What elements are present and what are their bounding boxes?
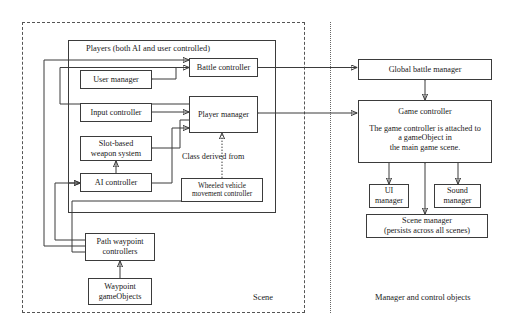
- node-user-manager[interactable]: User manager: [80, 70, 152, 89]
- players-group-title: Players (both AI and user controlled): [86, 44, 210, 53]
- node-global-battle-manager[interactable]: Global battle manager: [358, 59, 492, 80]
- node-battle-controller[interactable]: Battle controller: [189, 58, 258, 77]
- node-wheeled-vehicle-line-1: movement controller: [192, 190, 252, 198]
- node-game-controller-note-line-0: The game controller is attached to: [369, 124, 481, 134]
- node-battle-controller-line-0: Battle controller: [197, 63, 250, 73]
- scene-region-label: Scene: [253, 293, 273, 302]
- node-path-waypoint-line-1: controllers: [102, 247, 137, 257]
- node-player-manager-line-0: Player manager: [198, 110, 249, 120]
- node-waypoint-gameobjects-line-0: Waypoint: [104, 282, 136, 292]
- node-input-controller-line-0: Input controller: [90, 108, 141, 118]
- node-waypoint-gameobjects[interactable]: Waypoint gameObjects: [88, 278, 152, 305]
- node-ui-manager[interactable]: UI manager: [369, 184, 409, 208]
- node-game-controller[interactable]: Game controller The game controller is a…: [358, 100, 492, 163]
- node-path-waypoint-controllers[interactable]: Path waypoint controllers: [85, 233, 155, 261]
- architecture-diagram: Players (both AI and user controlled): [0, 0, 509, 334]
- node-sound-manager[interactable]: Sound manager: [434, 184, 481, 208]
- node-ui-manager-line-0: UI: [385, 186, 394, 196]
- node-wheeled-vehicle-movement-controller[interactable]: Wheeled vehicle movement controller: [181, 178, 263, 202]
- node-game-controller-note-line-1: a gameObject in: [398, 133, 452, 143]
- node-waypoint-gameobjects-line-1: gameObjects: [99, 292, 142, 302]
- managers-region-label: Manager and control objects: [375, 293, 471, 302]
- node-wheeled-vehicle-line-0: Wheeled vehicle: [198, 182, 246, 190]
- node-sound-manager-line-0: Sound: [447, 186, 468, 196]
- node-scene-manager[interactable]: Scene manager (persists across all scene…: [366, 214, 488, 238]
- node-slot-based-weapon-system-line-0: Slot-based: [99, 139, 134, 149]
- node-scene-manager-line-0: Scene manager: [402, 216, 452, 226]
- node-slot-based-weapon-system-line-1: weapon system: [91, 149, 141, 159]
- node-ai-controller-line-0: AI controller: [95, 178, 138, 188]
- node-sound-manager-line-1: manager: [443, 196, 471, 206]
- node-path-waypoint-line-0: Path waypoint: [96, 237, 143, 247]
- node-input-controller[interactable]: Input controller: [80, 103, 152, 122]
- node-game-controller-line-0: Game controller: [398, 107, 451, 117]
- annotation-class-derived-from: Class derived from: [182, 152, 244, 161]
- node-slot-based-weapon-system[interactable]: Slot-based weapon system: [80, 136, 152, 161]
- scene-managers-divider: [330, 22, 331, 313]
- node-global-battle-manager-line-0: Global battle manager: [389, 65, 462, 75]
- node-ai-controller[interactable]: AI controller: [80, 173, 152, 192]
- node-player-manager[interactable]: Player manager: [189, 96, 258, 133]
- node-ui-manager-line-1: manager: [375, 196, 403, 206]
- node-scene-manager-line-1: (persists across all scenes): [384, 226, 470, 236]
- node-game-controller-note-line-2: the main game scene.: [390, 143, 460, 153]
- node-user-manager-line-0: User manager: [93, 75, 139, 85]
